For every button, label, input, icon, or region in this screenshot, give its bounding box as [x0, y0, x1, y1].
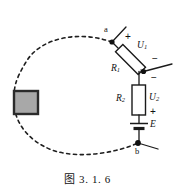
terminal-lead-a — [112, 27, 126, 42]
node-label-b: b — [135, 147, 139, 156]
r1-subscript: 1 — [117, 66, 120, 73]
voltage-label-u2: U2 — [149, 93, 159, 103]
node-label-a: a — [104, 25, 108, 34]
u1-symbol: U — [137, 40, 144, 50]
emf-label-e: E — [150, 120, 156, 130]
resistor-label-r2: R2 — [116, 94, 125, 104]
polarity-u1-plus: + — [125, 32, 131, 42]
u2-subscript: 2 — [156, 95, 159, 102]
resistor-icon-r2 — [132, 85, 146, 115]
polarity-u2-plus: + — [150, 107, 156, 117]
junction-dot-icon-mid — [141, 69, 146, 74]
voltage-label-u1: U1 — [137, 41, 147, 51]
r2-subscript: 2 — [122, 96, 125, 103]
battery-cell-icon — [130, 124, 148, 129]
u1-subscript: 1 — [144, 43, 147, 50]
figure-container: a b + U1 − R1 − U2 + R2 E 图 3. 1. 6 — [0, 0, 175, 194]
black-box-load-icon — [14, 91, 38, 114]
terminal-lead-b — [138, 143, 158, 149]
figure-caption: 图 3. 1. 6 — [0, 170, 175, 186]
terminal-lead-mid — [144, 64, 173, 72]
junction-dot-icon-a — [109, 39, 114, 44]
u2-symbol: U — [149, 92, 156, 102]
resistor-label-r1: R1 — [111, 64, 120, 74]
polarity-u2-minus: − — [151, 73, 157, 83]
polarity-u1-minus: − — [152, 54, 158, 64]
